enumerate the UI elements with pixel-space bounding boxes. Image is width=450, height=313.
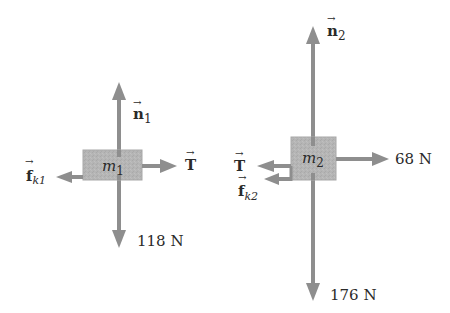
svg-text:→: →	[25, 156, 34, 167]
weight-arrow-m1	[112, 180, 126, 248]
friction-label-fk1: → fk1	[25, 156, 46, 187]
normal-label-n2: → n2	[327, 13, 346, 43]
svg-text:n2: n2	[327, 22, 346, 43]
normal-force-n2-arrow	[306, 26, 320, 145]
tension-label-m2: → T	[234, 148, 246, 175]
svg-text:fk2: fk2	[238, 182, 258, 203]
svg-text:T: T	[185, 156, 197, 174]
weight-arrow-m2	[306, 172, 320, 301]
tension-arrow-m2	[257, 160, 291, 172]
weight-label-m2: 176 N	[330, 286, 377, 304]
svg-text:fk1: fk1	[26, 167, 46, 187]
friction-label-fk2: → fk2	[238, 172, 258, 203]
free-body-diagram-m1: m1 → n1 → T → fk1 118 N	[25, 82, 197, 250]
friction-arrow-m1	[56, 171, 83, 183]
applied-force-arrow-m2	[336, 152, 389, 166]
free-body-diagram-m2: m2 → n2 → T → fk2 68 N 176 N	[234, 13, 432, 304]
normal-label-n1: → n1	[133, 97, 152, 126]
weight-label-m1: 118 N	[137, 232, 184, 250]
normal-force-n1-arrow	[112, 82, 126, 150]
svg-text:n1: n1	[133, 105, 152, 126]
free-body-diagrams: m1 → n1 → T → fk1 118 N	[0, 0, 450, 313]
applied-force-label-m2: 68 N	[395, 150, 432, 168]
tension-label-m1: → T	[185, 147, 197, 174]
tension-arrow-m1	[142, 159, 177, 173]
